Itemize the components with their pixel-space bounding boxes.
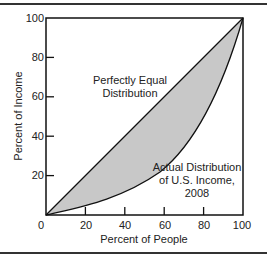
x-tick-label: 0 xyxy=(38,219,44,231)
lorenz-chart: 100 80 60 40 20 0 20 40 60 80 100 Percen… xyxy=(0,0,267,257)
x-tick-label: 100 xyxy=(233,219,251,231)
x-tick-label: 80 xyxy=(198,219,210,231)
y-tick-label: 20 xyxy=(32,169,44,181)
y-tick-label: 40 xyxy=(32,130,44,142)
y-tick-label: 80 xyxy=(32,51,44,63)
annotation-equal-line1: Perfectly Equal xyxy=(93,74,167,86)
annotation-actual-line1: Actual Distribution xyxy=(153,161,242,173)
y-tick-label: 100 xyxy=(26,12,44,24)
annotation-actual-line2: of U.S. Income, xyxy=(159,174,235,186)
y-tick-label: 60 xyxy=(32,90,44,102)
x-tick-label: 60 xyxy=(159,219,171,231)
y-axis-label: Percent of Income xyxy=(12,71,24,160)
annotation-equal-line2: Distribution xyxy=(102,87,157,99)
annotation-actual-line3: 2008 xyxy=(185,187,209,199)
y-ticks xyxy=(46,57,54,175)
x-ticks xyxy=(85,207,203,215)
x-tick-label: 20 xyxy=(80,219,92,231)
x-axis-label: Percent of People xyxy=(100,233,187,245)
x-tick-label: 40 xyxy=(119,219,131,231)
